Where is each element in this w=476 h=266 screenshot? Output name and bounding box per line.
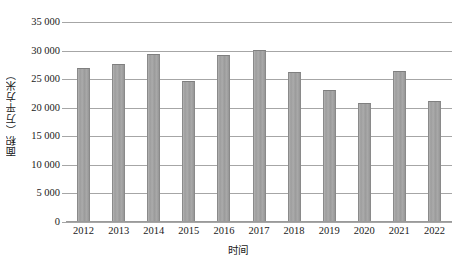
y-axis-tick-label: 30 000: [31, 45, 60, 56]
x-axis-tick-label: 2019: [319, 226, 340, 237]
bar: [358, 103, 371, 221]
x-axis-tick-label: 2014: [143, 226, 164, 237]
bar: [112, 64, 125, 221]
bar: [77, 68, 90, 221]
y-axis-tick-label: 0: [55, 217, 60, 228]
bar-chart: 面积（万平方米） 05 00010 00015 00020 00025 0003…: [0, 0, 476, 266]
bar: [428, 101, 441, 221]
y-axis-title-text: 面积（万平方米）: [4, 69, 19, 157]
x-axis-tick-label: 2022: [424, 226, 445, 237]
x-axis-tick-label: 2020: [354, 226, 375, 237]
bar: [288, 72, 301, 221]
bar: [253, 50, 266, 221]
bar: [217, 55, 230, 221]
y-axis-tick-labels: 05 00010 00015 00020 00025 00030 00035 0…: [18, 0, 66, 240]
y-axis-tick-label: 15 000: [31, 131, 60, 142]
y-axis-tick-label: 10 000: [31, 160, 60, 171]
x-axis-title-text: 时间: [228, 242, 248, 257]
x-axis-tick-label: 2021: [389, 226, 410, 237]
bars-layer: [66, 22, 452, 222]
gridline: [66, 222, 452, 223]
x-axis-tick-label: 2016: [213, 226, 234, 237]
x-axis-title: 时间: [0, 242, 476, 257]
x-axis-line: [66, 221, 452, 222]
x-axis-tick-label: 2013: [108, 226, 129, 237]
y-axis-tick-label: 5 000: [36, 188, 60, 199]
bar: [393, 71, 406, 221]
plot-area: [66, 22, 452, 222]
x-axis-tick-label: 2015: [178, 226, 199, 237]
x-axis-tick-labels: 2012201320142015201620172018201920202021…: [66, 224, 452, 242]
y-axis-tick-label: 35 000: [31, 17, 60, 28]
y-axis-tick: [62, 222, 66, 223]
x-axis-tick-label: 2017: [249, 226, 270, 237]
x-axis-tick-label: 2012: [73, 226, 94, 237]
y-axis-tick-label: 20 000: [31, 102, 60, 113]
x-axis-tick-label: 2018: [284, 226, 305, 237]
y-axis-tick-label: 25 000: [31, 74, 60, 85]
bar: [182, 81, 195, 221]
bar: [147, 54, 160, 221]
bar: [323, 90, 336, 221]
